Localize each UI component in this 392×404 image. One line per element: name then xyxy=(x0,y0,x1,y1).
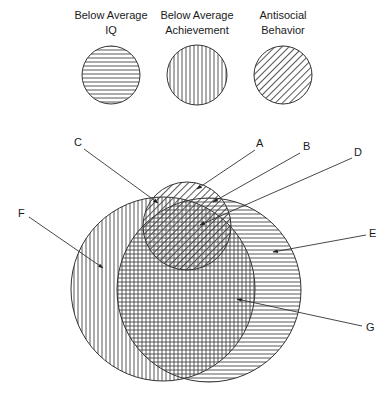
legend-label-achievement-line2: Achievement xyxy=(165,24,229,36)
venn-diagram-figure: Below Average IQ Below Average Achieveme… xyxy=(0,0,392,404)
diagonal-hatch-circle-icon xyxy=(254,46,312,104)
legend: Below Average IQ Below Average Achieveme… xyxy=(74,9,312,105)
vertical-hatch-circle-icon xyxy=(167,45,227,105)
legend-label-iq-line2: IQ xyxy=(105,24,117,36)
legend-label-achievement-line1: Below Average xyxy=(160,9,233,21)
legend-item-iq: Below Average IQ xyxy=(74,9,147,104)
label-d: D xyxy=(354,146,362,158)
arrow-b xyxy=(213,153,300,202)
arrow-d xyxy=(200,158,352,225)
legend-label-antisocial-line2: Behavior xyxy=(261,24,305,36)
legend-label-iq-line1: Below Average xyxy=(74,9,147,21)
legend-item-antisocial: Antisocial Behavior xyxy=(254,9,312,104)
label-g: G xyxy=(366,321,375,333)
horizontal-hatch-circle-icon xyxy=(82,46,140,104)
label-c: C xyxy=(74,136,82,148)
label-e: E xyxy=(369,227,376,239)
label-b: B xyxy=(303,140,310,152)
venn xyxy=(71,182,301,382)
legend-item-achievement: Below Average Achievement xyxy=(160,9,233,105)
antisocial-circle xyxy=(143,182,231,270)
label-a: A xyxy=(256,137,264,149)
legend-label-antisocial-line1: Antisocial xyxy=(259,9,306,21)
arrow-c xyxy=(84,149,158,203)
label-f: F xyxy=(18,207,25,219)
